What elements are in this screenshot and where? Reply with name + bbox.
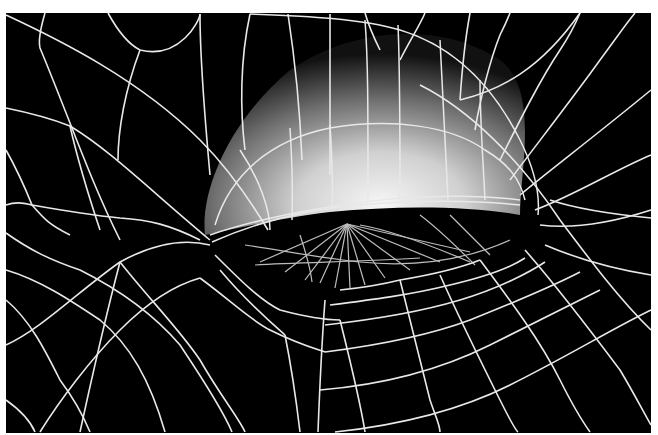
eye-wireframe-figure: [0, 0, 658, 435]
